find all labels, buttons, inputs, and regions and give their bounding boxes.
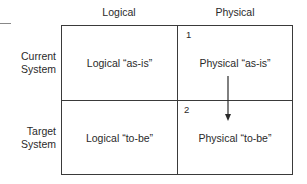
row-header-line1: Target [0, 125, 56, 138]
cell-physical-to-be: Physical “to-be” [178, 101, 292, 174]
row-header-current-system: Current System [0, 50, 56, 76]
row-header-line2: System [0, 138, 56, 151]
column-header-physical: Physical [177, 6, 293, 18]
cell-logical-to-be: Logical “to-be” [62, 101, 177, 174]
marker-2: 2 [184, 104, 189, 115]
row-header-line1: Current [0, 50, 56, 63]
column-header-logical: Logical [61, 6, 177, 18]
top-left-rule [0, 23, 11, 24]
cell-physical-as-is: Physical “as-is” [178, 26, 292, 100]
cell-logical-as-is: Logical “as-is” [62, 26, 177, 100]
row-header-line2: System [0, 63, 56, 76]
marker-1: 1 [186, 29, 191, 40]
grid-right-border [292, 25, 293, 175]
row-header-target-system: Target System [0, 125, 56, 151]
down-arrow-icon [222, 74, 234, 124]
